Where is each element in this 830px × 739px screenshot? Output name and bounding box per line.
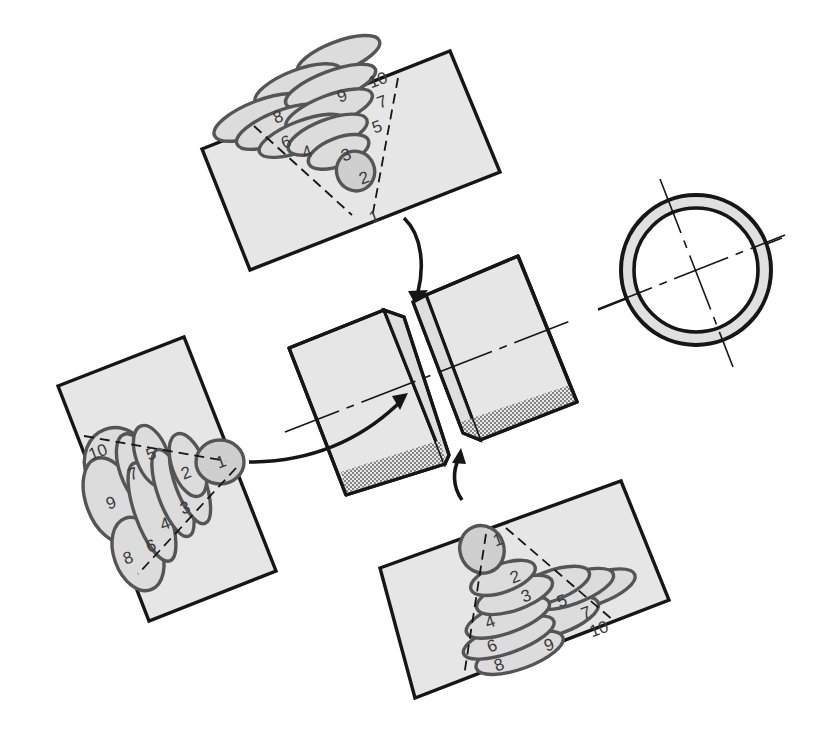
arrowhead-icon (452, 448, 466, 464)
arrow-bottom-to-joint (454, 458, 462, 500)
arrow-top-to-joint (404, 218, 421, 292)
weld-sequence-diagram: 1 2 3 4 5 6 7 8 9 10 (0, 0, 830, 739)
pipe-cross-section (598, 179, 785, 367)
top-weld-view: 1 2 3 4 5 6 7 8 9 10 (199, 27, 500, 306)
bottom-weld-view: 1 2 3 4 5 6 7 8 9 10 (380, 481, 669, 698)
